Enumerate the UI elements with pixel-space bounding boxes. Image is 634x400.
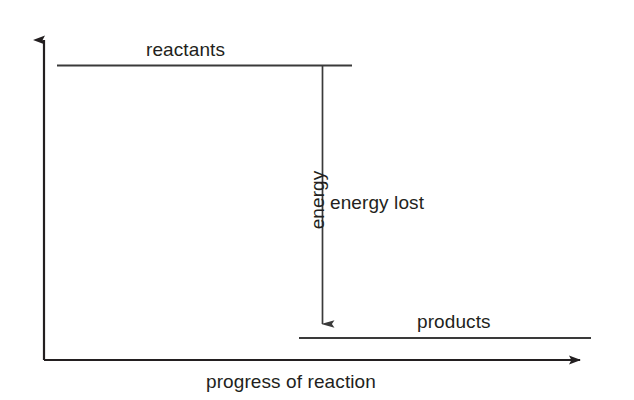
y-axis-label-text: energy [308,171,327,230]
energy-profile-diagram: reactants energy lost products progress … [0,0,634,400]
x-axis-label: progress of reaction [206,372,376,391]
products-label: products [417,312,491,331]
reactants-label: reactants [146,40,225,59]
energy-lost-label: energy lost [330,193,424,212]
